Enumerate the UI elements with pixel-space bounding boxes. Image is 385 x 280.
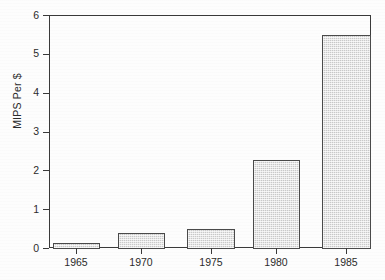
x-axis-tick-3 [211,248,212,254]
bar-1975 [187,229,235,249]
y-axis-tick-label-4: 4 [20,87,39,98]
x-axis-tick-2 [141,248,142,254]
y-axis-tick-label-5: 5 [20,48,39,59]
x-axis-tick-label-1975: 1975 [188,257,234,268]
y-axis-tick-label-0: 0 [20,243,39,254]
x-axis-tick-label-1970: 1970 [118,257,164,268]
y-axis-tick-label-6: 6 [20,10,39,21]
y-axis-tick-0 [43,248,49,249]
x-axis-tick-1 [76,248,77,254]
y-axis-tick-label-1: 1 [20,204,39,215]
x-axis-tick-5 [346,248,347,254]
y-axis-tick-label-3: 3 [20,126,39,137]
x-axis-tick-label-1985: 1985 [323,257,369,268]
y-axis-title: MIPS Per $ [11,46,23,156]
x-axis-tick-4 [276,248,277,254]
bar-1980 [253,160,300,248]
bar-1985 [322,35,371,249]
bar-1970 [118,233,165,249]
x-axis-tick-label-1980: 1980 [253,257,299,268]
x-axis-tick-label-1965: 1965 [53,257,99,268]
bar-chart: MIPS Per $ 6 5 4 3 2 1 0 1965 1970 1975 … [0,0,385,280]
y-axis-tick-label-2: 2 [20,165,39,176]
